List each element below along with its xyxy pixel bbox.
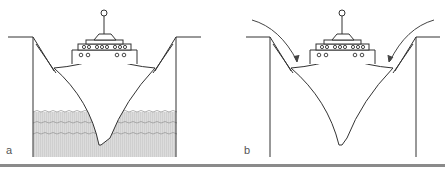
ship-hull [291,57,393,145]
arrow-right-icon [390,20,434,61]
panel-label-a: a [6,144,12,156]
bottom-divider [0,164,445,167]
ship-superstructure [72,10,137,64]
arrow-left-icon [252,20,297,61]
figure-canvas [0,0,445,171]
panel-label-b: b [244,144,250,156]
panel-a [8,10,201,157]
ship-superstructure [310,10,375,64]
panel-b [246,10,440,157]
